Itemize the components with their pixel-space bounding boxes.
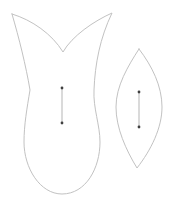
grain-line-end-marker <box>61 122 64 125</box>
grain-line-end-marker <box>138 126 141 129</box>
pattern-canvas <box>0 0 176 210</box>
grain-line-end-marker <box>138 91 141 94</box>
pattern-sheet <box>0 0 176 210</box>
grain-line-end-marker <box>61 87 64 90</box>
